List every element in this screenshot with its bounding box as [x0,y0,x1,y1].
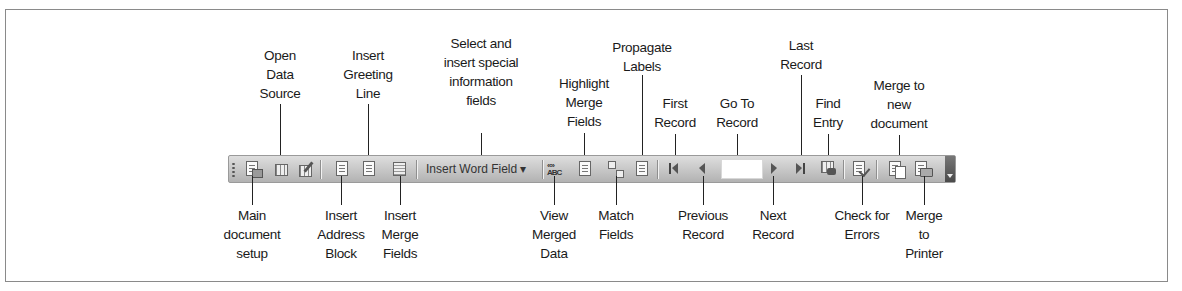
insert-merge-fields-button[interactable] [393,161,409,177]
leader-line [554,176,555,205]
callout-last-record: Last Record [780,36,822,74]
toolbar-separator [876,160,877,179]
first-record-button[interactable] [669,161,685,177]
merge-to-printer-button[interactable] [915,161,931,177]
callout-previous-record: Previous Record [678,206,728,244]
figure-frame [5,9,1168,282]
callout-go-to-record: Go To Record [716,94,758,132]
callout-merge-to-new-document: Merge to new document [871,76,928,133]
toolbar-options-overflow-button[interactable] [945,156,955,182]
callout-open-data-source: Open Data Source [260,46,301,103]
main-document-setup-button[interactable] [246,161,262,177]
leader-line [368,104,369,162]
propagate-labels-button[interactable] [636,161,648,176]
leader-line [400,176,401,205]
callout-next-record: Next Record [752,206,794,244]
toolbar-separator [320,160,321,179]
callout-view-merged-data: View Merged Data [532,206,576,263]
last-record-icon [796,163,802,174]
merge-to-new-document-button[interactable] [889,161,905,177]
match-fields-button[interactable] [608,161,624,177]
match-fields-icon-a [608,161,616,169]
callout-insert-greeting-line: Insert Greeting Line [343,46,392,103]
toolbar-separator [416,160,417,179]
callout-check-for-errors: Check for Errors [834,206,889,244]
view-merged-data-button[interactable]: «»ABC [547,161,563,177]
toolbar-separator [657,160,658,179]
first-record-arrow [672,163,678,174]
leader-line [616,176,617,205]
leader-line [773,176,774,205]
view-merged-data-icon: «»ABC [547,162,561,176]
mail-merge-recipients-button[interactable] [299,161,315,177]
document-overlay-icon [252,169,263,178]
highlight-merge-fields-button[interactable] [579,161,591,176]
insert-greeting-line-button[interactable] [363,161,375,176]
callout-insert-address-block: Insert Address Block [317,206,364,263]
leader-line [341,176,342,205]
find-entry-button[interactable] [821,161,837,177]
binoculars-icon [827,168,836,175]
callout-main-document-setup: Main document setup [224,206,281,263]
callout-merge-to-printer: Merge to Printer [905,206,943,263]
next-record-button[interactable] [771,161,787,177]
insert-word-field-dropdown[interactable]: Insert Word Field ▾ [422,159,540,179]
insert-address-block-button[interactable] [336,161,348,176]
leader-line [703,176,704,205]
leader-line [252,176,253,205]
mail-merge-toolbar: Insert Word Field ▾ «»ABC [228,155,956,183]
toolbar-separator [843,160,844,179]
callout-highlight-merge-fields: Highlight Merge Fields [559,74,609,131]
leader-line [862,176,863,205]
callout-match-fields: Match Fields [598,206,633,244]
merge-new-doc-icon [895,166,906,179]
callout-insert-merge-fields: Insert Merge Fields [382,206,419,263]
previous-record-button[interactable] [699,161,715,177]
leader-line [924,176,925,205]
callout-find-entry: Find Entry [813,94,843,132]
callout-first-record: First Record [654,94,696,132]
merge-fields-icon [393,162,406,176]
last-record-bar [803,163,805,174]
leader-line [801,75,802,163]
printer-icon [920,168,933,177]
go-to-record-input[interactable] [721,159,763,179]
check-for-errors-button[interactable] [853,161,869,177]
open-data-source-button[interactable] [275,164,288,176]
toolbar-separator [542,160,543,179]
last-record-button[interactable] [796,161,812,177]
leader-line [642,75,643,163]
callout-select-insert-special-fields: Select and insert special information fi… [444,34,519,110]
next-record-icon [771,163,777,174]
previous-record-icon [699,163,705,174]
callout-propagate-labels: Propagate Labels [612,38,672,76]
leader-line [280,104,281,162]
toolbar-grip-handle[interactable] [232,162,235,178]
first-record-icon [669,163,671,174]
match-fields-icon-b [616,170,624,178]
